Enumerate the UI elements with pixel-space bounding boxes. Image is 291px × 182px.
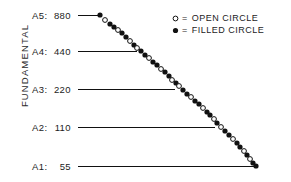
octave-frequency: 55 [49, 161, 71, 172]
data-point-filled-circle [138, 48, 143, 53]
octave-frequency: 440 [49, 46, 71, 57]
octave-label-a4: A4:440 [32, 46, 71, 57]
octave-name: A3: [32, 84, 49, 95]
data-point-filled-circle [180, 87, 185, 92]
octave-frequency: 880 [49, 10, 71, 21]
data-point-open-circle [219, 125, 224, 130]
data-point-filled-circle [154, 62, 159, 67]
data-point-filled-circle [222, 128, 227, 133]
data-point-filled-circle [196, 101, 201, 106]
octave-label-a5: A5:880 [32, 10, 71, 21]
data-point-filled-circle [123, 34, 128, 39]
data-point-open-circle [170, 78, 175, 83]
octave-frequency: 110 [49, 122, 71, 133]
data-point-open-circle [248, 157, 253, 162]
data-point-open-circle [189, 95, 194, 100]
legend-open-circle-label: OPEN CIRCLE [192, 13, 259, 23]
open-circle-icon [168, 14, 182, 23]
data-point-open-circle [135, 46, 140, 51]
legend-filled-circle-label: FILLED CIRCLE [192, 25, 265, 35]
octave-label-a3: A3:220 [32, 84, 71, 95]
legend-filled-circle-equals: = [182, 25, 188, 35]
legend-item-open-circle: = OPEN CIRCLE [168, 12, 264, 24]
data-point-open-circle [116, 28, 121, 33]
octave-name: A1: [32, 161, 49, 172]
octave-frequency: 220 [49, 84, 71, 95]
data-point-open-circle [159, 67, 164, 72]
data-point-filled-circle [214, 120, 219, 125]
legend-open-circle-equals: = [182, 13, 188, 23]
octave-label-a2: A2:110 [32, 122, 71, 133]
data-point-open-circle [177, 84, 182, 89]
data-point-filled-circle [162, 69, 167, 74]
legend-item-filled-circle: = FILLED CIRCLE [168, 24, 264, 36]
data-point-filled-circle [226, 132, 231, 137]
octave-name: A5: [32, 10, 49, 21]
fundamental-frequency-figure: FUNDAMENTAL A5:880A4:440A3:220A2:110A1:5… [0, 0, 291, 182]
data-point-open-circle [147, 56, 152, 61]
filled-circle-icon [168, 26, 182, 35]
octave-name: A4: [32, 46, 49, 57]
data-point-open-circle [201, 106, 206, 111]
data-point-open-circle [231, 137, 236, 142]
data-point-filled-circle [119, 30, 124, 35]
data-point-filled-circle [97, 12, 102, 17]
data-point-open-circle [212, 117, 217, 122]
octave-name: A2: [32, 122, 49, 133]
data-point-open-circle [103, 18, 108, 23]
data-point-filled-circle [237, 144, 242, 149]
legend: = OPEN CIRCLE = FILLED CIRCLE [168, 12, 264, 36]
octave-label-a1: A1:55 [32, 161, 71, 172]
data-point-filled-circle [207, 112, 212, 117]
data-point-open-circle [242, 149, 247, 154]
data-point-open-circle [128, 39, 133, 44]
data-point-filled-circle [253, 163, 258, 168]
